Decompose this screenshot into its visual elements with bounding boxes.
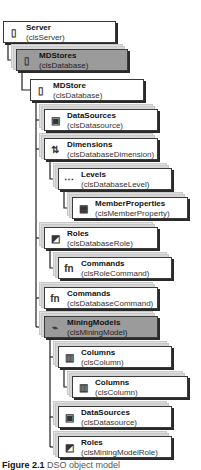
- node-class-name: (clsMemberProperty): [95, 209, 170, 218]
- node-class-name: (clsDatabaseDimension): [67, 150, 154, 159]
- connector-mdstores-mdstore: [22, 71, 30, 90]
- database-icon: ▯: [21, 54, 33, 68]
- node-title: Server: [26, 23, 51, 32]
- node-datasources: ▣DataSources(clsDatasource): [44, 109, 158, 131]
- node-class-name: (clsRoleCommand): [81, 269, 149, 278]
- node-title: MDStores: [39, 51, 76, 60]
- node-title: Dimensions: [67, 140, 112, 149]
- member-property-icon: ▦: [77, 202, 89, 216]
- datasource-icon: ▣: [63, 411, 75, 425]
- role-icon: ◩: [49, 232, 61, 246]
- node-title: Columns: [81, 348, 115, 357]
- node-title: Roles: [67, 229, 89, 238]
- node-class-name: (clsDatabase): [39, 61, 88, 70]
- figure-caption: Figure 2.1 DSO object model: [2, 460, 120, 470]
- node-columns1: ▥Columns(clsColumn): [58, 346, 172, 368]
- node-box: ⇅Dimensions(clsDatabaseDimension): [44, 138, 158, 160]
- node-box: ◩Roles(clsMiningModelRole): [58, 436, 172, 458]
- node-class-name: (clsServer): [26, 33, 65, 42]
- node-mmdatasources: ▣DataSources(clsDatasource): [58, 406, 172, 428]
- command-icon: fn: [63, 262, 75, 276]
- node-title: Levels: [81, 170, 106, 179]
- node-title: Commands: [67, 289, 111, 298]
- node-box: ▯MDStore(clsDatabase): [30, 79, 144, 101]
- node-class-name: (clsColumn): [95, 388, 138, 397]
- node-mdstore: ▯MDStore(clsDatabase): [30, 79, 144, 101]
- node-box: ▦MemberProperties(clsMemberProperty): [72, 197, 188, 219]
- node-box: ⋯Levels(clsDatabaseLevel): [58, 168, 172, 190]
- node-box: ◩Roles(clsDatabaseRole): [44, 227, 158, 249]
- node-title: MemberProperties: [95, 199, 165, 208]
- node-mmroles: ◩Roles(clsMiningModelRole): [58, 436, 172, 458]
- datasource-icon: ▣: [49, 114, 61, 128]
- node-class-name: (clsColumn): [81, 358, 124, 367]
- column-icon: ▥: [77, 381, 89, 395]
- node-box: fnCommands(clsRoleCommand): [58, 257, 172, 279]
- node-dbcommands: fnCommands(clsDatabaseCommand): [44, 287, 158, 309]
- database-icon: ▯: [35, 84, 47, 98]
- caption-text: DSO object model: [47, 460, 120, 470]
- dimension-icon: ⇅: [49, 143, 61, 157]
- node-box: ▣DataSources(clsDatasource): [44, 109, 158, 131]
- node-class-name: (clsMiningModelRole): [81, 448, 158, 457]
- node-title: MiningModels: [67, 318, 120, 327]
- node-columns2: ▥Columns(clsColumn): [72, 376, 188, 398]
- node-box: ⌁MiningModels(clsMiningModel): [44, 316, 158, 338]
- server-icon: ▯: [8, 26, 20, 40]
- level-icon: ⋯: [63, 173, 75, 187]
- caption-label: Figure 2.1: [2, 460, 45, 470]
- node-box: ▯Server(clsServer): [3, 21, 116, 43]
- role-icon: ◩: [63, 441, 75, 455]
- node-class-name: (clsDatabase): [53, 91, 102, 100]
- node-box: ▯MDStores(clsDatabase): [16, 49, 128, 71]
- node-class-name: (clsDatasource): [67, 121, 123, 130]
- node-box: ▥Columns(clsColumn): [72, 376, 188, 398]
- node-class-name: (clsDatabaseCommand): [67, 299, 153, 308]
- node-miningmodels: ⌁MiningModels(clsMiningModel): [44, 316, 158, 338]
- node-title: Columns: [95, 378, 129, 387]
- node-title: MDStore: [53, 81, 86, 90]
- node-levels: ⋯Levels(clsDatabaseLevel): [58, 168, 172, 190]
- node-box: fnCommands(clsDatabaseCommand): [44, 287, 158, 309]
- node-roles: ◩Roles(clsDatabaseRole): [44, 227, 158, 249]
- node-class-name: (clsDatabaseLevel): [81, 180, 149, 189]
- node-class-name: (clsDatabaseRole): [67, 239, 133, 248]
- node-class-name: (clsMiningModel): [67, 328, 127, 337]
- node-title: DataSources: [81, 408, 130, 417]
- node-class-name: (clsDatasource): [81, 418, 137, 427]
- column-icon: ▥: [63, 351, 75, 365]
- node-box: ▥Columns(clsColumn): [58, 346, 172, 368]
- mining-model-icon: ⌁: [49, 321, 61, 335]
- command-icon: fn: [49, 292, 61, 306]
- node-memberproperties: ▦MemberProperties(clsMemberProperty): [72, 197, 188, 219]
- node-rolecommands: fnCommands(clsRoleCommand): [58, 257, 172, 279]
- node-dimensions: ⇅Dimensions(clsDatabaseDimension): [44, 138, 158, 160]
- node-title: DataSources: [67, 111, 116, 120]
- node-title: Roles: [81, 438, 103, 447]
- node-server: ▯Server(clsServer): [3, 21, 116, 43]
- node-mdstores: ▯MDStores(clsDatabase): [16, 49, 128, 71]
- node-box: ▣DataSources(clsDatasource): [58, 406, 172, 428]
- node-title: Commands: [81, 259, 125, 268]
